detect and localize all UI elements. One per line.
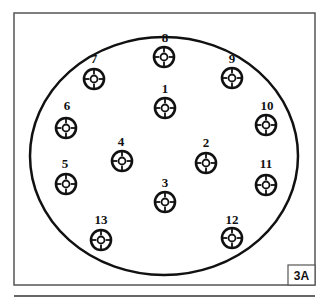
- target-12: 12: [221, 212, 243, 249]
- target-13: 13: [90, 212, 112, 251]
- target-3: 3: [154, 175, 176, 213]
- target-7: 7: [83, 51, 105, 90]
- target-2: 2: [195, 135, 217, 174]
- crosshair-target-icon: [255, 114, 277, 136]
- target-number-label: 8: [162, 30, 169, 45]
- target-number-label: 10: [261, 98, 274, 113]
- target-number-label: 4: [118, 134, 125, 149]
- crosshair-target-icon: [221, 227, 243, 249]
- target-number-label: 7: [91, 51, 98, 66]
- target-4: 4: [111, 134, 133, 172]
- target-number-label: 3: [162, 175, 169, 190]
- figure-id-box: 3A: [288, 265, 315, 285]
- target-6: 6: [55, 98, 77, 139]
- target-number-label: 1: [162, 81, 169, 96]
- target-11: 11: [255, 156, 277, 196]
- outer-circle: [30, 37, 298, 275]
- crosshair-target-icon: [221, 67, 243, 89]
- target-number-label: 2: [203, 135, 210, 150]
- targets-group: 12345678910111213: [55, 30, 277, 251]
- pin-layout-diagram: 12345678910111213 3A: [0, 0, 332, 298]
- target-number-label: 12: [226, 212, 239, 227]
- target-number-label: 5: [62, 156, 69, 171]
- crosshair-target-icon: [255, 174, 277, 196]
- target-number-label: 11: [260, 156, 272, 171]
- crosshair-target-icon: [154, 97, 176, 119]
- target-5: 5: [55, 156, 77, 195]
- crosshair-target-icon: [111, 150, 133, 172]
- figure-id-label: 3A: [294, 269, 310, 283]
- crosshair-target-icon: [55, 173, 77, 195]
- target-8: 8: [153, 30, 175, 68]
- crosshair-target-icon: [195, 152, 217, 174]
- crosshair-target-icon: [55, 117, 77, 139]
- target-10: 10: [255, 98, 277, 136]
- crosshair-target-icon: [90, 229, 112, 251]
- crosshair-target-icon: [83, 68, 105, 90]
- target-1: 1: [154, 81, 176, 119]
- target-number-label: 9: [229, 51, 236, 66]
- target-number-label: 6: [64, 98, 71, 113]
- target-number-label: 13: [95, 212, 109, 227]
- crosshair-target-icon: [153, 46, 175, 68]
- crosshair-target-icon: [154, 191, 176, 213]
